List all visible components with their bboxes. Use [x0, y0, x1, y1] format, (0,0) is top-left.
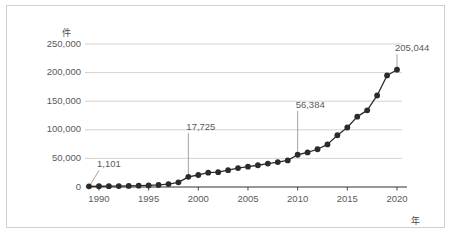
data-point-marker [354, 114, 360, 120]
data-point-marker [245, 164, 251, 170]
data-value-annotation: 17,725 [186, 121, 215, 132]
data-point-marker [285, 158, 291, 164]
data-point-marker [225, 167, 231, 173]
chart-screenshot: 件 年 050,000100,000150,000200,000250,0001… [0, 0, 459, 240]
x-axis-tick-label: 2015 [327, 193, 367, 204]
data-point-marker [126, 183, 132, 189]
y-axis-tick-label: 250,000 [47, 38, 81, 49]
data-point-marker [176, 179, 182, 185]
data-point-marker [384, 73, 390, 79]
data-point-marker [255, 162, 261, 168]
data-point-marker [374, 93, 380, 99]
data-point-marker [96, 183, 102, 189]
data-point-marker [275, 159, 281, 165]
y-axis-tick-label: 50,000 [52, 152, 81, 163]
data-point-marker [394, 67, 400, 73]
y-axis-tick-label: 100,000 [47, 123, 81, 134]
y-axis-tick-label: 150,000 [47, 95, 81, 106]
data-value-annotation: 205,044 [395, 42, 429, 53]
data-point-marker [156, 182, 162, 188]
x-axis-tick-label: 1990 [79, 193, 119, 204]
data-point-marker [235, 165, 241, 171]
y-axis-tick-label: 200,000 [47, 66, 81, 77]
data-point-marker [344, 125, 350, 131]
data-value-annotation: 1,101 [97, 158, 121, 169]
data-point-marker [195, 172, 201, 178]
data-point-marker [215, 169, 221, 175]
x-axis-tick-label: 1995 [129, 193, 169, 204]
data-point-marker [205, 170, 211, 176]
data-point-marker [86, 183, 92, 189]
x-axis-tick-label: 2010 [278, 193, 318, 204]
data-point-marker [325, 141, 331, 147]
x-axis-tick-label: 2020 [377, 193, 417, 204]
data-point-marker [364, 107, 370, 113]
data-point-marker [106, 183, 112, 189]
x-axis-tick-label: 2005 [228, 193, 268, 204]
data-point-marker [136, 183, 142, 189]
data-point-marker [305, 149, 311, 155]
data-point-marker [295, 152, 301, 158]
data-point-marker [116, 183, 122, 189]
data-point-marker [185, 174, 191, 180]
data-point-marker [166, 181, 172, 187]
series-line [89, 70, 397, 187]
data-point-marker [334, 132, 340, 138]
data-point-marker [265, 161, 271, 167]
chart-frame: 件 年 050,000100,000150,000200,000250,0001… [6, 5, 445, 228]
data-point-marker [315, 146, 321, 152]
data-point-marker [146, 182, 152, 188]
annotation-leader-line [91, 170, 100, 184]
x-axis-tick-label: 2000 [178, 193, 218, 204]
y-axis-tick-label: 0 [76, 181, 81, 192]
data-value-annotation: 56,384 [296, 99, 325, 110]
